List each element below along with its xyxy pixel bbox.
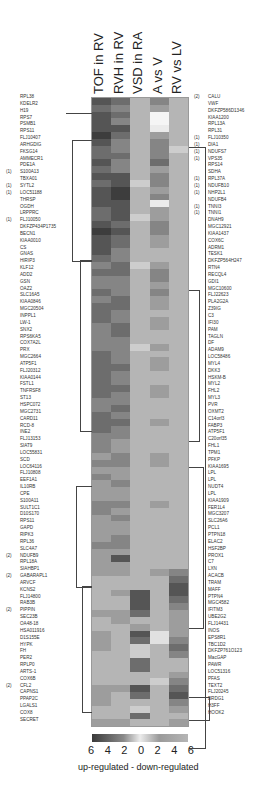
gene-label: DKFZP586D1346 xyxy=(208,108,278,115)
heatmap-cell xyxy=(130,392,149,399)
heatmap-cell xyxy=(111,678,130,685)
heatmap-cell xyxy=(130,603,149,610)
gene-name: Z39IG xyxy=(208,306,221,311)
gene-name: FLJ10808 xyxy=(20,470,40,475)
heatmap-cell xyxy=(92,180,111,187)
heatmap-cell xyxy=(111,467,130,474)
heatmap-cell xyxy=(92,515,111,522)
gene-label: DKFZP564H247 xyxy=(208,258,278,265)
heatmap-cell xyxy=(130,405,149,412)
heatmap-cell xyxy=(130,146,149,153)
gene-label: PROX1 xyxy=(208,553,278,560)
gene-name: RPL13A xyxy=(208,121,225,126)
gene-name: TAGLN xyxy=(208,334,223,339)
heatmap-cell xyxy=(169,364,188,371)
heatmap-cell xyxy=(150,303,169,310)
heatmap-cell xyxy=(92,385,111,392)
gene-label: RPS11 xyxy=(20,128,70,135)
heatmap-cell xyxy=(92,166,111,173)
heatmap-cell xyxy=(111,576,130,583)
heatmap-cell xyxy=(169,555,188,562)
heatmap-cell xyxy=(150,562,169,569)
gene-label: RPLP0 xyxy=(20,662,70,669)
heatmap-cell xyxy=(150,214,169,221)
gene-name: S100A13 xyxy=(20,169,39,174)
gene-label: PFAS xyxy=(208,676,278,683)
heatmap-cell xyxy=(130,596,149,603)
cluster-marker: (1) xyxy=(6,169,12,176)
heatmap-cell xyxy=(130,228,149,235)
gene-label: FH xyxy=(20,648,70,655)
column-header-a-vs-v: A vs V xyxy=(150,8,170,94)
heatmap-cell xyxy=(111,596,130,603)
heatmap-cell xyxy=(92,665,111,672)
heatmap-cell xyxy=(150,610,169,617)
heatmap-cell xyxy=(92,194,111,201)
heatmap-cell xyxy=(92,637,111,644)
heatmap-cell xyxy=(150,378,169,385)
heatmap-cell xyxy=(111,562,130,569)
heatmap-cell xyxy=(169,672,188,679)
heatmap-cell xyxy=(169,173,188,180)
gene-name: DKFZP564H247 xyxy=(208,258,242,263)
gene-name: RTN4 xyxy=(208,265,220,270)
heatmap-cell xyxy=(150,583,169,590)
heatmap-cell xyxy=(130,351,149,358)
gene-label: LPL xyxy=(208,470,278,477)
heatmap-cell xyxy=(169,480,188,487)
heatmap-cell xyxy=(130,166,149,173)
gene-label: KIAA0144 xyxy=(20,375,70,382)
gene-name: ATP5F1 xyxy=(20,361,37,366)
heatmap-cell xyxy=(111,180,130,187)
gene-label: MYL3 xyxy=(208,395,278,402)
heatmap-cell xyxy=(130,549,149,556)
heatmap-cell xyxy=(150,494,169,501)
heatmap-cell xyxy=(130,631,149,638)
heatmap-cell xyxy=(130,467,149,474)
heatmap-cell xyxy=(150,515,169,522)
gene-label: DKK3 xyxy=(208,368,278,375)
heatmap-cell xyxy=(150,576,169,583)
heatmap-cell xyxy=(130,419,149,426)
heatmap-cell xyxy=(130,317,149,324)
heatmap-cell xyxy=(169,221,188,228)
heatmap-cell xyxy=(169,262,188,269)
heatmap-cell xyxy=(150,644,169,651)
heatmap-cell xyxy=(150,596,169,603)
gene-label: HSPC072 xyxy=(20,402,70,409)
gene-name: PVR xyxy=(208,402,217,407)
heatmap-cell xyxy=(111,501,130,508)
heatmap-cell xyxy=(130,535,149,542)
heatmap-cell xyxy=(150,719,169,726)
heatmap-cell xyxy=(111,480,130,487)
heatmap-cell xyxy=(169,487,188,494)
gene-name: KIAA0846 xyxy=(20,299,41,304)
gene-name: RPL37A xyxy=(208,176,225,181)
heatmap-cell xyxy=(92,173,111,180)
right-gene-labels: (2)CALUVWFDKFZP586D1346KIAA1200RPL13ARPL… xyxy=(208,94,278,717)
heatmap-cell xyxy=(111,569,130,576)
gene-name: MYL4 xyxy=(208,361,220,366)
gene-label: RPL31 xyxy=(208,128,278,135)
gene-label: KIAA1437 xyxy=(208,231,278,238)
heatmap-cell xyxy=(169,412,188,419)
heatmap-cell xyxy=(92,282,111,289)
gene-name: H19 xyxy=(20,108,28,113)
heatmap-cell xyxy=(111,344,130,351)
gene-name: EEF1A1 xyxy=(20,477,37,482)
heatmap-cell xyxy=(111,187,130,194)
heatmap-cell xyxy=(92,624,111,631)
gene-label: IL10RB xyxy=(20,484,70,491)
gene-label: UBE2G2 xyxy=(208,614,278,621)
heatmap-cell xyxy=(169,535,188,542)
heatmap-cell xyxy=(169,317,188,324)
heatmap-cell xyxy=(130,248,149,255)
heatmap-cell xyxy=(92,337,111,344)
heatmap-cell xyxy=(150,317,169,324)
heatmap-cell xyxy=(169,521,188,528)
heatmap-cell xyxy=(130,501,149,508)
heatmap-cell xyxy=(130,713,149,720)
heatmap-cell xyxy=(169,446,188,453)
gene-label: LPL xyxy=(208,491,278,498)
gene-label: SECRET xyxy=(20,717,70,724)
